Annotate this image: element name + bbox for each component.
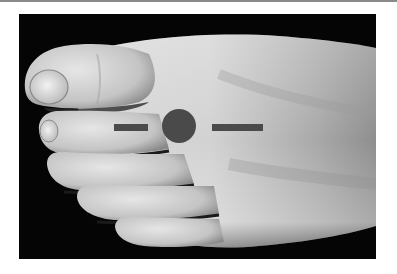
fourth-toe <box>77 185 219 221</box>
top-divider <box>0 0 397 2</box>
big-toenail <box>30 70 68 104</box>
bar-marker-icon <box>212 124 263 131</box>
third-toe <box>47 152 194 191</box>
foot-photo <box>19 14 376 259</box>
point-marker-icon <box>162 109 196 143</box>
foot-illustration <box>19 14 376 259</box>
little-toe <box>115 217 224 247</box>
second-toenail <box>40 120 58 142</box>
bar-marker-icon <box>114 124 148 131</box>
figure-page <box>0 0 397 274</box>
second-toe <box>39 111 169 155</box>
